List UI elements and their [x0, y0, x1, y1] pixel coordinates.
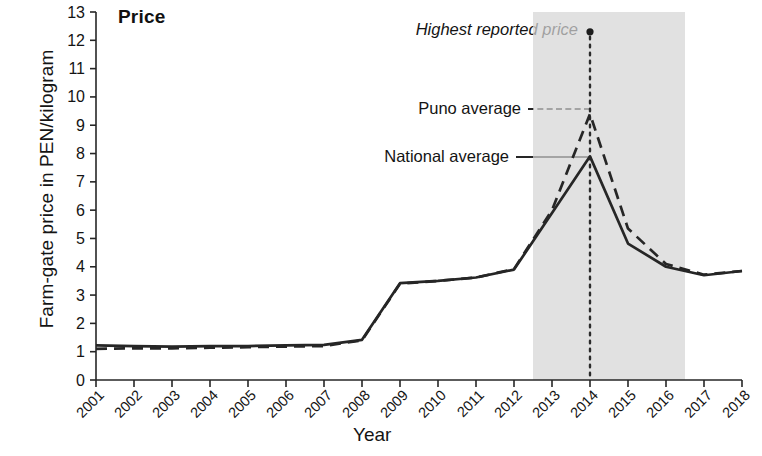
highest-price-marker-dot [586, 28, 593, 35]
svg-text:4: 4 [76, 258, 85, 275]
shaded-band-group [533, 12, 685, 380]
svg-text:0: 0 [76, 372, 85, 389]
svg-text:5: 5 [76, 230, 85, 247]
svg-text:2002: 2002 [111, 387, 145, 421]
svg-text:2009: 2009 [377, 387, 411, 421]
x-tick-labels-group: 2001200220032004200520062007200820092010… [73, 387, 753, 421]
svg-text:2001: 2001 [73, 387, 107, 421]
svg-text:2013: 2013 [529, 387, 563, 421]
svg-text:2016: 2016 [643, 387, 677, 421]
svg-text:9: 9 [76, 117, 85, 134]
svg-text:2017: 2017 [681, 387, 715, 421]
svg-text:2012: 2012 [491, 387, 525, 421]
svg-text:8: 8 [76, 145, 85, 162]
svg-text:1: 1 [76, 343, 85, 360]
svg-text:2003: 2003 [149, 387, 183, 421]
svg-text:2018: 2018 [719, 387, 753, 421]
price-chart: Price Farm-gate price in PEN/kilogram Ye… [0, 0, 762, 456]
svg-text:2005: 2005 [225, 387, 259, 421]
svg-text:2004: 2004 [187, 387, 221, 421]
plot-area: 012345678910111213 200120022003200420052… [0, 0, 762, 456]
svg-text:3: 3 [76, 287, 85, 304]
svg-text:2006: 2006 [263, 387, 297, 421]
svg-text:2015: 2015 [605, 387, 639, 421]
svg-text:12: 12 [67, 32, 85, 49]
svg-text:10: 10 [67, 88, 85, 105]
svg-text:2010: 2010 [415, 387, 449, 421]
svg-text:2007: 2007 [301, 387, 335, 421]
svg-text:11: 11 [68, 60, 85, 77]
svg-text:2008: 2008 [339, 387, 373, 421]
y-tick-labels-group: 012345678910111213 [67, 4, 85, 389]
svg-text:2011: 2011 [454, 387, 487, 420]
svg-text:2014: 2014 [567, 387, 601, 421]
svg-text:6: 6 [76, 202, 85, 219]
svg-text:7: 7 [76, 173, 85, 190]
svg-text:2: 2 [76, 315, 85, 332]
svg-text:13: 13 [67, 4, 85, 21]
